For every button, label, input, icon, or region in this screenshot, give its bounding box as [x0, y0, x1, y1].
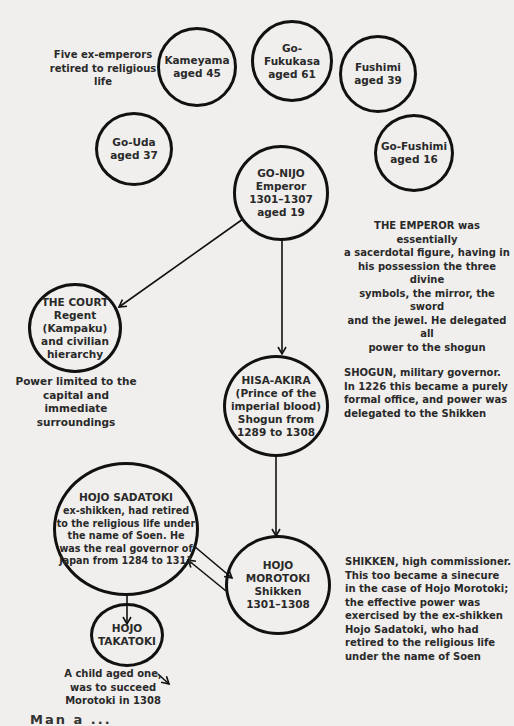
node-name: Go-Fushimi	[381, 140, 447, 153]
note-line: power to the shogun	[343, 341, 511, 355]
note-line: SHOGUN, military governor.	[344, 366, 514, 380]
note-line: and the jewel. He delegated all	[343, 314, 511, 341]
node-name: HOJO	[98, 622, 156, 635]
node-age: aged 19	[249, 206, 313, 219]
node-line: the name of Soen. He	[57, 530, 196, 543]
note-line: in the case of Hojo Morotoki;	[345, 582, 513, 596]
note-emperor: THE EMPEROR was essentially a sacerdotal…	[343, 219, 511, 354]
node-age: aged 61	[254, 68, 330, 81]
node-reign: 1301–1307	[249, 193, 313, 206]
node-hojo-sadatoki: HOJO SADATOKIex-shikken, had retiredto t…	[53, 462, 199, 596]
arrow-emperor-to-court	[119, 219, 243, 307]
node-line: Japan from 1284 to 1311	[57, 555, 196, 568]
node-name: HOJO	[246, 559, 311, 572]
note-line: THE EMPEROR was essentially	[343, 219, 511, 246]
note-line: was to succeed	[50, 681, 176, 695]
node-name: MOROTOKI	[246, 572, 311, 585]
note-takatoki: A child aged one, was to succeed Morotok…	[50, 667, 176, 708]
node-age: aged 45	[164, 67, 229, 80]
note-shogun: SHOGUN, military governor. In 1226 this …	[344, 366, 514, 420]
node-line: (Prince of the	[231, 387, 321, 400]
note-line: SHIKKEN, high commissioner.	[345, 555, 513, 569]
node-go-fushimi: Go-Fushimiaged 16	[374, 114, 454, 192]
node-line: to the religious life under	[57, 518, 196, 531]
node-line: 1289 to 1308	[231, 426, 321, 439]
node-line: was the real governor of	[57, 543, 196, 556]
note-line: the effective power was	[345, 596, 513, 610]
node-title: Shikken	[246, 585, 311, 598]
note-line: capital and immediate	[14, 389, 138, 416]
node-line: Shogun from	[231, 413, 321, 426]
node-the-court: THE COURTRegent(Kampaku)and civilianhier…	[28, 283, 122, 373]
node-name: GO-NIJO	[249, 167, 313, 180]
label-line: life	[48, 75, 158, 89]
node-kameyama: Kameyamaaged 45	[157, 27, 237, 107]
node-hojo-takatoki: HOJOTAKATOKI	[90, 603, 164, 667]
node-line: imperial blood)	[231, 400, 321, 413]
note-line: symbols, the mirror, the sword	[343, 287, 511, 314]
node-name: TAKATOKI	[98, 635, 156, 648]
node-name: Fushimi	[354, 61, 402, 74]
note-line: under the name of Soen	[345, 650, 513, 664]
note-line: exercised by the ex-shikken	[345, 609, 513, 623]
node-age: aged 16	[381, 153, 447, 166]
note-line: a sacerdotal figure, having in	[343, 246, 511, 260]
node-line: Regent	[41, 309, 109, 322]
node-name: Go-Uda	[110, 136, 158, 149]
label-line: retired to religious	[48, 62, 158, 76]
node-name: THE COURT	[41, 296, 109, 309]
note-line: This too became a sinecure	[345, 569, 513, 583]
note-line: In 1226 this became a purely	[344, 380, 514, 394]
node-name: Kameyama	[164, 54, 229, 67]
node-name: HOJO SADATOKI	[57, 491, 196, 504]
node-line: (Kampaku)	[41, 322, 109, 335]
node-line: hierarchy	[41, 348, 109, 361]
note-court: Power limited to the capital and immedia…	[14, 375, 138, 429]
label-line: Five ex-emperors	[48, 48, 158, 62]
note-line: surroundings	[14, 416, 138, 430]
cut-off-body-text: Man a ...	[30, 712, 230, 726]
node-age: aged 37	[110, 149, 158, 162]
node-go-fukakusa: Go-Fukukasaaged 61	[251, 20, 333, 102]
note-line: formal office, and power was	[344, 393, 514, 407]
node-line: and civilian	[41, 335, 109, 348]
node-name: HISA-AKIRA	[231, 374, 321, 387]
note-line: retired to the religious life	[345, 636, 513, 650]
node-go-uda: Go-Udaaged 37	[95, 112, 173, 186]
ex-emperors-label: Five ex-emperors retired to religious li…	[48, 48, 158, 89]
note-line: A child aged one,	[50, 667, 176, 681]
note-line: Morotoki in 1308	[50, 694, 176, 708]
node-hojo-morotoki: HOJOMOROTOKIShikken1301–1308	[225, 535, 331, 635]
node-term: 1301–1308	[246, 598, 311, 611]
note-line: delegated to the Shikken	[344, 407, 514, 421]
node-title: Emperor	[249, 180, 313, 193]
note-line: Power limited to the	[14, 375, 138, 389]
node-line: ex-shikken, had retired	[57, 505, 196, 518]
node-go-nijo: GO-NIJOEmperor1301–1307aged 19	[233, 145, 329, 241]
note-shikken: SHIKKEN, high commissioner. This too bec…	[345, 555, 513, 663]
note-line: his possession the three divine	[343, 260, 511, 287]
node-hisa-akira: HISA-AKIRA(Prince of theimperial blood)S…	[223, 355, 329, 457]
node-age: aged 39	[354, 74, 402, 87]
note-line: Hojo Sadatoki, who had	[345, 623, 513, 637]
node-name: Go-Fukukasa	[254, 42, 330, 68]
node-fushimi: Fushimiaged 39	[339, 35, 417, 113]
